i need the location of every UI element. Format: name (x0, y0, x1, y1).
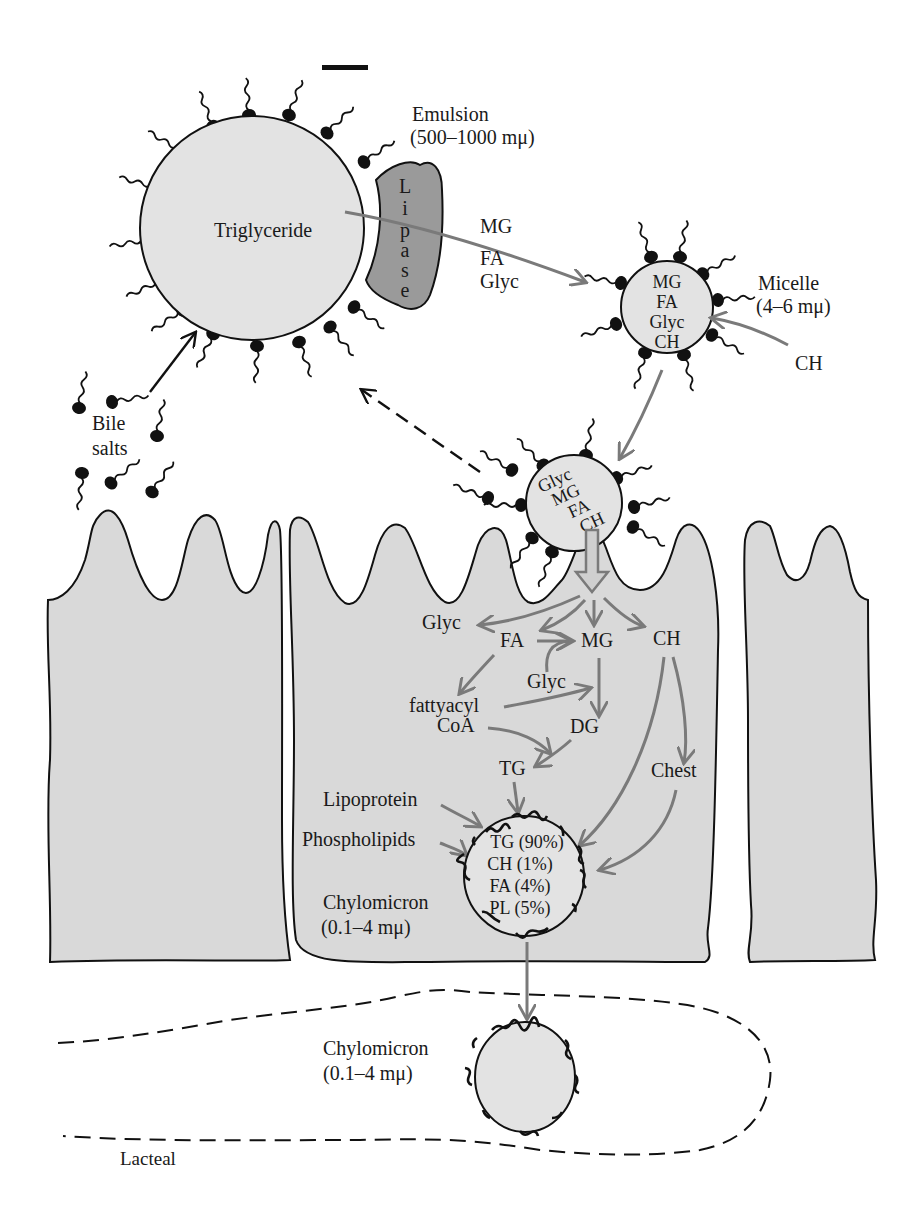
epithelial-cell-left (48, 511, 290, 962)
micelle-to-membrane-arrow (620, 370, 662, 458)
svg-text:TG: TG (499, 757, 526, 779)
svg-text:MG: MG (581, 629, 613, 651)
svg-text:Glyc: Glyc (650, 312, 685, 332)
scale-bar (322, 65, 368, 70)
chylomicron-cell-size: (0.1–4 mμ) (321, 916, 411, 939)
emulsion-size: (500–1000 mμ) (410, 126, 535, 149)
svg-text:Glyc: Glyc (527, 670, 566, 693)
emulsion-label: Emulsion (412, 103, 489, 125)
svg-text:MG: MG (652, 272, 681, 292)
svg-text:PL (5%): PL (5%) (490, 898, 551, 919)
lipase-label: L i p a s e (399, 175, 411, 301)
svg-text:TG (90%): TG (90%) (490, 832, 563, 853)
chylomicron-cell-label: Chylomicron (323, 891, 429, 914)
svg-text:FA (4%): FA (4%) (489, 876, 550, 897)
bile-salts-label-2: salts (92, 437, 128, 459)
svg-text:Chest: Chest (651, 759, 697, 781)
svg-text:a: a (401, 239, 410, 261)
svg-text:DG: DG (570, 715, 599, 737)
svg-text:Glyc: Glyc (422, 611, 461, 634)
svg-text:e: e (401, 279, 410, 301)
svg-text:CoA: CoA (437, 714, 475, 736)
svg-text:i: i (402, 197, 408, 219)
svg-text:MG: MG (480, 215, 512, 237)
lipolysis-products: MG FA Glyc (480, 215, 519, 293)
micelle-label: Micelle (758, 272, 819, 294)
fat-absorption-diagram: L i p a s e Triglyceride Emulsion (500–1… (0, 0, 913, 1214)
svg-text:Glyc: Glyc (480, 270, 519, 293)
svg-text:FA: FA (480, 247, 505, 269)
micelle-incoming-ch: CH (795, 352, 823, 374)
micelle-size: (4–6 mμ) (756, 295, 831, 318)
lacteal-label: Lacteal (120, 1148, 176, 1169)
svg-text:FA: FA (500, 629, 525, 651)
svg-text:CH: CH (653, 627, 681, 649)
micelle: MG FA Glyc CH (579, 219, 756, 392)
phospholipids-label: Phospholipids (302, 828, 416, 851)
lacteal-chylomicron-size: (0.1–4 mμ) (323, 1062, 413, 1085)
svg-text:CH (1%): CH (1%) (487, 854, 553, 875)
triglyceride-label: Triglyceride (214, 219, 312, 242)
svg-text:L: L (399, 175, 411, 197)
bile-recycle-arrow (362, 390, 480, 472)
svg-text:CH: CH (654, 332, 679, 352)
bile-to-emulsion-arrow (150, 333, 195, 392)
svg-text:FA: FA (656, 292, 678, 312)
lacteal-outline (58, 990, 770, 1155)
lipoprotein-label: Lipoprotein (323, 788, 417, 811)
chylomicron-lacteal (465, 1017, 579, 1136)
bile-salts-label-1: Bile (92, 412, 125, 434)
lacteal-chylomicron-label: Chylomicron (323, 1037, 429, 1060)
epithelial-cell-right (744, 522, 876, 962)
svg-text:s: s (401, 259, 409, 281)
